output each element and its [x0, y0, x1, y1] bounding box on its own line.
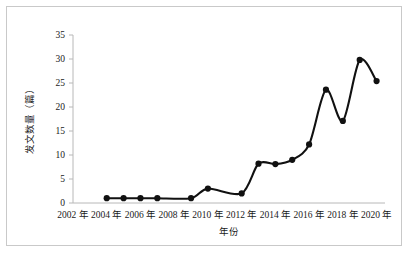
- data-point-marker: [154, 195, 160, 201]
- series-line-发文数量: [107, 59, 377, 199]
- y-tick-label: 0: [60, 198, 65, 208]
- data-point-marker: [120, 195, 126, 201]
- x-tick-label: 2014 年: [260, 209, 291, 220]
- y-axis-title: 发文数量（篇）: [24, 84, 35, 154]
- data-point-marker: [272, 161, 278, 167]
- y-tick-label: 15: [56, 126, 66, 136]
- data-point-marker: [357, 57, 363, 63]
- y-tick-label: 35: [56, 30, 66, 40]
- y-tick-label: 30: [56, 54, 66, 64]
- y-tick-label: 5: [60, 174, 65, 184]
- y-tick-label: 20: [56, 102, 66, 112]
- x-tick-label: 2006 年: [125, 209, 156, 220]
- data-point-marker: [205, 186, 211, 192]
- data-point-marker: [239, 190, 245, 196]
- chart-figure: 051015202530352002 年2004 年2006 年2008 年20…: [6, 6, 402, 246]
- x-tick-label: 2002 年: [57, 209, 88, 220]
- x-tick-label: 2004 年: [91, 209, 122, 220]
- x-axis-title: 年份: [219, 226, 239, 237]
- data-point-marker: [306, 141, 312, 147]
- data-point-marker: [340, 118, 346, 124]
- line-chart: 051015202530352002 年2004 年2006 年2008 年20…: [7, 7, 401, 245]
- y-tick-label: 10: [56, 150, 66, 160]
- data-point-marker: [323, 87, 329, 93]
- y-tick-label: 25: [56, 78, 66, 88]
- x-tick-label: 2008 年: [159, 209, 190, 220]
- x-tick-label: 2012 年: [226, 209, 257, 220]
- data-point-marker: [255, 161, 261, 167]
- x-tick-label: 2010 年: [192, 209, 223, 220]
- chart-plot-area: 051015202530352002 年2004 年2006 年2008 年20…: [7, 7, 401, 245]
- data-point-marker: [188, 195, 194, 201]
- x-tick-label: 2016 年: [293, 209, 324, 220]
- data-point-marker: [104, 195, 110, 201]
- data-point-marker: [137, 195, 143, 201]
- x-tick-label: 2020 年: [361, 209, 392, 220]
- data-point-marker: [373, 78, 379, 84]
- x-tick-label: 2018 年: [327, 209, 358, 220]
- data-point-marker: [289, 157, 295, 163]
